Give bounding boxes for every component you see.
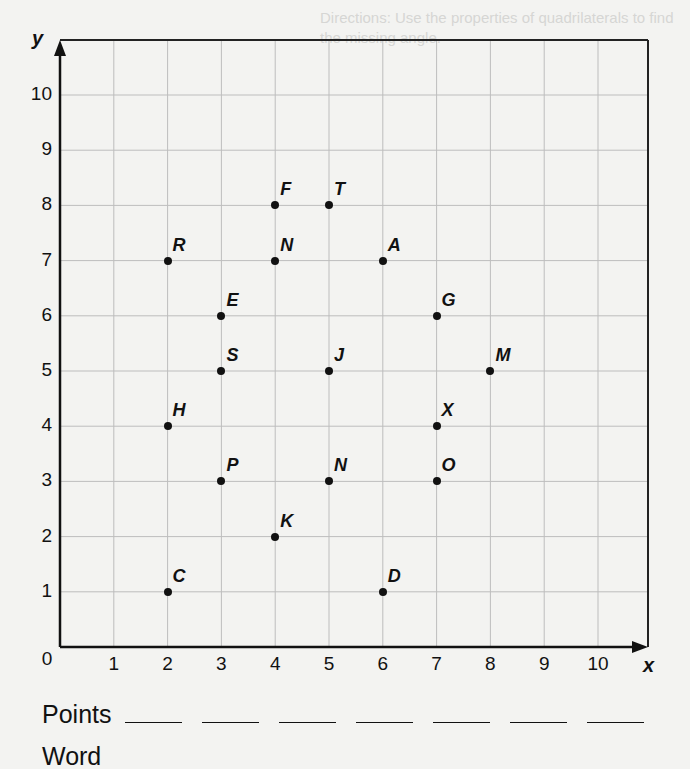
data-point-label-s: S <box>226 345 238 366</box>
data-point-dot <box>164 588 172 596</box>
y-tick-label: 8 <box>22 193 52 215</box>
x-tick-label: 5 <box>314 653 344 675</box>
data-point-dot <box>271 533 279 541</box>
data-point-label-c: C <box>173 566 186 587</box>
data-point-label-n: N <box>334 455 347 476</box>
data-point-dot <box>325 367 333 375</box>
x-tick-label: 2 <box>153 653 183 675</box>
data-point-dot <box>164 257 172 265</box>
answer-blank[interactable] <box>202 722 259 723</box>
data-point-label-j: J <box>334 345 344 366</box>
data-point-label-p: P <box>226 455 238 476</box>
y-axis-arrow-icon <box>54 40 66 56</box>
data-point-label-o: O <box>442 455 456 476</box>
data-point-label-t: T <box>334 179 345 200</box>
y-tick-label: 10 <box>22 83 52 105</box>
x-tick-label: 4 <box>260 653 290 675</box>
x-tick-label: 6 <box>368 653 398 675</box>
data-point-label-g: G <box>442 290 456 311</box>
data-point-dot <box>433 422 441 430</box>
data-point-dot <box>433 477 441 485</box>
points-label: Points <box>42 700 111 729</box>
y-tick-label: 1 <box>22 580 52 602</box>
data-point-label-r: R <box>173 235 186 256</box>
answer-blank[interactable] <box>433 722 490 723</box>
x-axis-label: x <box>643 654 654 677</box>
answer-blank[interactable] <box>279 722 336 723</box>
answer-blank[interactable] <box>587 722 644 723</box>
coordinate-grid: 12345678910123456789100xyFTRNAEGSJMHXPNO… <box>0 0 690 700</box>
data-point-label-m: M <box>495 345 510 366</box>
y-tick-label: 3 <box>22 469 52 491</box>
x-tick-label: 1 <box>99 653 129 675</box>
origin-label: 0 <box>32 648 62 670</box>
data-point-label-h: H <box>173 400 186 421</box>
data-point-label-e: E <box>226 290 238 311</box>
word-label: Word <box>42 742 101 769</box>
x-tick-label: 3 <box>206 653 236 675</box>
y-axis-label: y <box>32 27 43 50</box>
y-tick-label: 4 <box>22 414 52 436</box>
data-point-dot <box>433 312 441 320</box>
y-tick-label: 5 <box>22 359 52 381</box>
answer-blanks <box>125 722 664 729</box>
x-tick-label: 8 <box>475 653 505 675</box>
x-axis-arrow-icon <box>632 641 648 653</box>
y-tick-label: 7 <box>22 249 52 271</box>
data-point-label-x: X <box>442 400 454 421</box>
x-tick-label: 7 <box>422 653 452 675</box>
data-point-label-f: F <box>280 179 291 200</box>
data-point-label-a: A <box>388 235 401 256</box>
y-tick-label: 6 <box>22 304 52 326</box>
answer-blank[interactable] <box>510 722 567 723</box>
data-point-dot <box>379 257 387 265</box>
data-point-dot <box>164 422 172 430</box>
data-point-label-k: K <box>280 511 293 532</box>
data-point-dot <box>271 257 279 265</box>
y-tick-label: 2 <box>22 525 52 547</box>
points-answer-row: Points <box>42 700 664 729</box>
y-tick-label: 9 <box>22 138 52 160</box>
answer-blank[interactable] <box>125 722 182 723</box>
answer-blank[interactable] <box>356 722 413 723</box>
data-point-label-n: N <box>280 235 293 256</box>
x-tick-label: 10 <box>583 653 613 675</box>
data-point-dot <box>379 588 387 596</box>
x-tick-label: 9 <box>529 653 559 675</box>
data-point-label-d: D <box>388 566 401 587</box>
grid-canvas <box>0 0 690 700</box>
